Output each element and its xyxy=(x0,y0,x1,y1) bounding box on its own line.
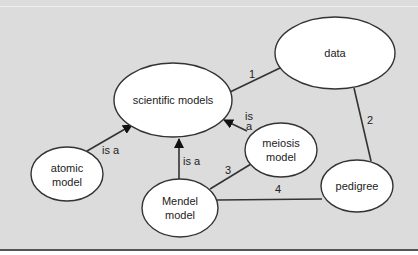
node-label: scientific models xyxy=(133,94,214,106)
node-shape xyxy=(245,123,317,177)
isa-meiosis-label-line-2: a xyxy=(246,120,253,132)
node-label-line-2: model xyxy=(266,151,296,163)
isa-atomic-label: is a xyxy=(102,144,120,156)
node-label-line-2: model xyxy=(52,176,82,188)
concept-map: scientific models data meiosis model ato… xyxy=(0,0,418,255)
isa-mendel-label: is a xyxy=(183,155,201,167)
diagram-page: scientific models data meiosis model ato… xyxy=(0,0,418,255)
node-shape xyxy=(142,179,218,237)
node-pedigree: pedigree xyxy=(321,160,393,212)
bottom-margin xyxy=(0,251,418,255)
edge-2-label: 2 xyxy=(367,114,373,126)
node-shape xyxy=(31,147,103,201)
node-label-line-2: model xyxy=(165,209,195,221)
isa-meiosis-arrow xyxy=(224,120,247,131)
node-label: pedigree xyxy=(336,180,379,192)
node-mendel-model: Mendel model xyxy=(142,179,218,237)
node-atomic-model: atomic model xyxy=(31,147,103,201)
edge-4-line xyxy=(217,199,322,200)
node-meiosis-model: meiosis model xyxy=(245,123,317,177)
edge-1-label: 1 xyxy=(249,68,255,80)
node-label: data xyxy=(324,47,346,59)
node-label-line-1: atomic xyxy=(51,162,84,174)
node-data: data xyxy=(275,17,395,89)
edge-4-label: 4 xyxy=(275,183,281,195)
edge-3-label: 3 xyxy=(225,164,231,176)
node-label-line-1: Mendel xyxy=(162,195,198,207)
node-scientific-models: scientific models xyxy=(114,63,232,137)
node-label-line-1: meiosis xyxy=(262,137,300,149)
